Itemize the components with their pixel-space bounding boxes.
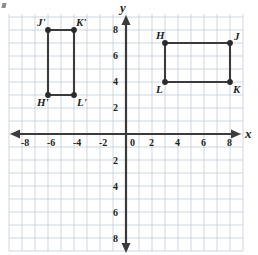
y-tick--8: 8 bbox=[113, 234, 118, 244]
point-label-l-prime: L' bbox=[77, 97, 87, 108]
rectangle-hjkl bbox=[162, 40, 233, 85]
vertex-j bbox=[227, 40, 233, 46]
x-axis-arrow-left bbox=[10, 130, 20, 139]
x-tick-4: 4 bbox=[175, 138, 180, 148]
point-label-h-prime: H' bbox=[37, 97, 49, 108]
origin-label: 0 bbox=[130, 138, 135, 148]
point-label-j: J bbox=[234, 31, 240, 42]
x-tick-6: 6 bbox=[201, 138, 206, 148]
plot-canvas bbox=[0, 0, 258, 255]
x-tick-2: 2 bbox=[149, 138, 154, 148]
y-tick-2: 2 bbox=[113, 103, 118, 113]
coordinate-plane-figure: x y 0 -8 -6 -4 -2 2 4 6 8 8 6 4 2 2 4 6 … bbox=[0, 0, 258, 255]
point-label-k-prime: K' bbox=[76, 17, 86, 28]
x-tick--8: -8 bbox=[21, 138, 29, 148]
y-axis-arrow-down bbox=[122, 243, 131, 253]
y-tick-8: 8 bbox=[113, 25, 118, 35]
y-axis-arrow-up bbox=[122, 15, 131, 25]
x-tick--2: -2 bbox=[99, 138, 107, 148]
y-tick--6: 6 bbox=[113, 208, 118, 218]
y-tick--4: 4 bbox=[113, 182, 118, 192]
point-label-l: L bbox=[156, 84, 163, 95]
point-label-h: H bbox=[156, 30, 165, 41]
x-axis-arrow-right bbox=[231, 130, 241, 139]
x-tick--4: -4 bbox=[73, 138, 81, 148]
x-tick--6: -6 bbox=[47, 138, 55, 148]
point-label-j-prime: J' bbox=[37, 17, 46, 28]
x-tick-8: 8 bbox=[227, 138, 232, 148]
y-tick--2: 2 bbox=[113, 156, 118, 166]
y-axis-label: y bbox=[120, 1, 126, 14]
point-label-k: K bbox=[233, 84, 240, 95]
x-axis-label: x bbox=[245, 127, 252, 140]
y-tick-4: 4 bbox=[113, 77, 118, 87]
axis-lines bbox=[17, 22, 234, 246]
y-tick-6: 6 bbox=[113, 51, 118, 61]
